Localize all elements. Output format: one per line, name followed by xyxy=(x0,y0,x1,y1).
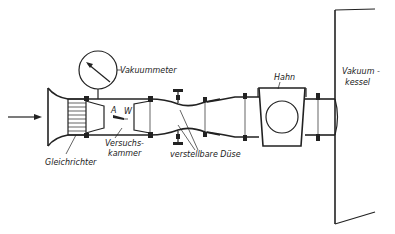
gleichrichter-leader xyxy=(66,135,76,154)
valve xyxy=(258,82,306,146)
inlet-nozzle xyxy=(48,88,86,146)
vakuumkessel-label-line1: Vakuum - xyxy=(342,67,380,76)
wind-tunnel-diagram: A W Vakuummeter verstellbare Düse xyxy=(0,0,395,234)
vacuum-gauge xyxy=(79,51,121,99)
adjustable-nozzle xyxy=(150,89,220,150)
hahn-label: Hahn xyxy=(274,73,295,82)
pipe-section xyxy=(207,93,259,141)
point-w-label: W xyxy=(124,107,133,116)
versuchskammer-label-line1: Versuchs- xyxy=(105,139,144,148)
vacuum-tank xyxy=(335,9,375,224)
gleichrichter-label: Gleichrichter xyxy=(45,158,97,167)
vakuummeter-label: Vakuummeter xyxy=(120,66,177,75)
verstellbare-duese-label: verstellbare Düse xyxy=(170,150,241,159)
pipe-to-tank xyxy=(305,93,338,141)
versuchskammer-leader xyxy=(115,128,122,138)
inlet-arrow-icon xyxy=(8,114,42,120)
vakuumkessel-label-line2: kessel xyxy=(345,78,371,87)
flow-straightener xyxy=(68,99,86,135)
versuchskammer-label-line2: kammer xyxy=(108,149,142,158)
point-a-label: A xyxy=(110,106,116,115)
